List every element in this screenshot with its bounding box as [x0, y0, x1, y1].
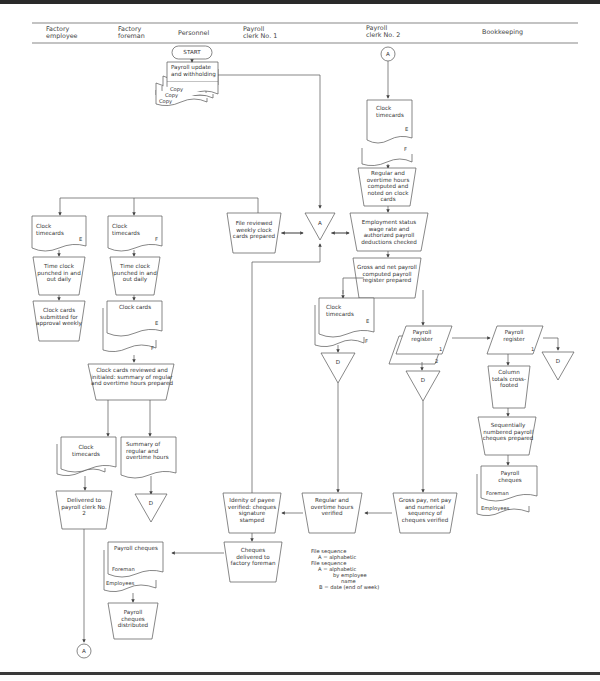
time-clock-foreman-process: Time clock punched in and out daily — [112, 263, 158, 283]
start-terminal: START — [172, 49, 212, 56]
regular-overtime-computed-process: Regular and overtime hours computed and … — [360, 170, 416, 203]
register-copy-2: 2 — [435, 358, 438, 364]
file-reviewed-process: File reviewed weekly clock cards prepare… — [230, 220, 278, 240]
employees-copy-label: Employees — [106, 580, 134, 586]
foreman-clock-cards-document: Clock cards — [112, 304, 158, 311]
payroll-cheques-bookkeeping: Payroll cheques — [490, 470, 530, 483]
copy-e-label: E — [405, 126, 408, 132]
column-header-factory-foreman: Factory foreman — [118, 26, 145, 41]
payroll-register-clerk2: Payroll register — [402, 329, 442, 342]
bottom-rule — [0, 672, 600, 675]
cheques-delivered-process: Cheques delivered to factory foreman — [230, 547, 276, 567]
sequential-cheques-process: Sequentially numbered payroll cheques pr… — [481, 422, 535, 442]
connector-a-top: A — [381, 51, 395, 58]
gross-pay-verified-process: Gross pay, net pay and numerical sequenc… — [396, 497, 454, 523]
legend-line-7: B = date (end of week) — [319, 584, 379, 590]
clock-cards-reviewed-process: Clock cards reviewed and initialed: summ… — [90, 367, 174, 387]
clock-timecards-clerk2-document: Clock timecards — [376, 105, 408, 118]
clerk2-mid-e: E — [366, 318, 369, 324]
delivered-to-clerk2-process: Delivered to payroll clerk No. 2 — [60, 497, 108, 517]
file-d-clerk2-b: D — [406, 377, 440, 384]
employee-clock-timecards: Clock timecards — [36, 223, 76, 236]
clock-timecards-clerk2-mid: Clock timecards — [326, 304, 362, 317]
file-d-foreman: D — [135, 500, 167, 507]
foreman-cards-e: E — [155, 320, 158, 326]
column-header-personnel: Personnel — [178, 30, 209, 37]
register-book-copy-1: 1 — [531, 346, 534, 352]
column-header-factory-employee: Factory employee — [46, 26, 78, 41]
register-copy-1: 1 — [439, 346, 442, 352]
column-header-payroll-clerk-2: Payroll clerk No. 2 — [366, 25, 400, 40]
copy-label-3: Copy — [159, 98, 172, 104]
payroll-update-document: Payroll update and withholding — [171, 64, 219, 77]
foreman-cards-f: F — [151, 345, 154, 351]
summary-hours-document: Summary of regular and overtime hours — [126, 441, 174, 461]
employment-status-check-process: Employment status wage rate and authoriz… — [354, 219, 424, 245]
clock-cards-submitted-process: Clock cards submitted for approval weekl… — [34, 307, 84, 327]
payroll-cheques-foreman: Payroll cheques — [114, 545, 158, 552]
connector-a-bottom: A — [77, 648, 91, 655]
column-totals-process: Column totals cross-footed — [492, 369, 526, 389]
identity-verified-process: Idenity of payee verified: cheques signa… — [226, 497, 278, 523]
payroll-register-bookkeeping: Payroll register — [494, 329, 534, 342]
file-d-bookkeeping: D — [542, 358, 574, 365]
time-clock-employee-process: Time clock punched in and out daily — [36, 263, 82, 283]
offpage-connector-a: A — [305, 220, 335, 227]
regular-overtime-verified-process: Regular and overtime hours verified — [308, 497, 356, 517]
copy-f-label: F — [404, 146, 407, 152]
clock-timecards-return-document: Clock timecards — [64, 444, 108, 457]
foreman-clock-timecards: Clock timecards — [112, 223, 152, 236]
cheques-employees-copy: Employees — [481, 505, 509, 511]
file-d-clerk2-a: D — [321, 359, 355, 366]
payroll-cheques-distributed-process: Payroll cheques distributed — [112, 609, 154, 629]
column-header-bookkeeping: Bookkeeping — [482, 29, 523, 36]
clerk2-mid-f: F — [365, 338, 368, 344]
gross-net-computed-process: Gross and net payroll computed payroll r… — [356, 264, 418, 284]
cheques-foreman-copy: Foreman — [486, 490, 509, 496]
foreman-copy-label: Foreman — [112, 566, 135, 572]
foreman-copy-f: F — [155, 236, 158, 242]
column-header-payroll-clerk-1: Payroll clerk No. 1 — [243, 26, 277, 41]
employee-copy-e: E — [79, 236, 82, 242]
